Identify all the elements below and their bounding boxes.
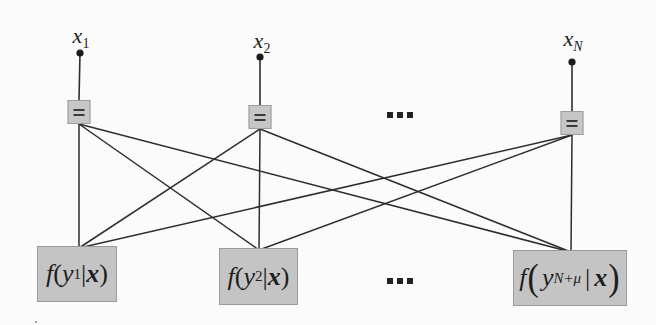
ellipsis-dot: [397, 278, 403, 284]
edge-xN-fN: [571, 135, 572, 252]
variable-subscript: 2: [263, 41, 270, 56]
ellipsis-dot: [387, 278, 393, 284]
bipartite-edges: [79, 124, 572, 252]
edge-x2-f2: [259, 129, 260, 250]
variable-label-x2: x2: [254, 30, 271, 60]
factor-variable: y: [62, 259, 74, 289]
equals-icon-bar: [74, 114, 85, 116]
variable-base: x: [254, 28, 264, 53]
equals-icon-bar: [74, 109, 85, 111]
variable-stems: [79, 53, 572, 111]
equals-icon-bar: [567, 120, 578, 122]
factor-node-f2: f(y2|x): [219, 248, 298, 305]
equality-node-x1: [68, 100, 91, 124]
variable-base: x: [73, 23, 83, 48]
conditioning-vector: x: [86, 259, 99, 289]
factor-subscript: 2: [255, 268, 263, 285]
variable-subscript: N: [573, 39, 582, 54]
equals-icon-bar: [255, 114, 266, 116]
equality-node-xN: [561, 111, 584, 135]
close-paren: ): [281, 262, 290, 292]
function-symbol: f: [46, 259, 53, 289]
ellipsis-dot: [407, 112, 413, 118]
equality-node-x2: [249, 105, 272, 129]
variable-dot-xN: [568, 58, 575, 65]
close-paren: ): [99, 259, 108, 289]
conditional-bar: |: [585, 263, 590, 293]
edge-x1-fN: [79, 124, 571, 252]
stem-x1: [79, 53, 80, 100]
scan-artifact-dot: [35, 321, 37, 323]
factor-node-fN: f(yN+μ|x): [513, 250, 627, 306]
equals-icon-bar: [255, 119, 266, 121]
edge-xN-f1: [79, 135, 572, 248]
factor-variable: y: [542, 263, 554, 293]
conditioning-vector: x: [594, 263, 607, 293]
variable-label-x1: x1: [73, 25, 90, 55]
edge-x2-fN: [260, 129, 571, 252]
open-paren: (: [528, 257, 539, 299]
factor-variable: y: [243, 262, 255, 292]
factor-subscript: 1: [74, 266, 82, 283]
ellipsis-dot: [387, 112, 393, 118]
factor-graph-diagram: x1 x2 xN f(y1|x) f(y2|x) f(yN+μ|x): [0, 0, 656, 325]
open-paren: (: [53, 259, 62, 289]
top-ellipsis: [387, 112, 413, 118]
variable-label-xN: xN: [563, 28, 582, 58]
close-paren: ): [608, 257, 619, 299]
variable-subscript: 1: [82, 36, 89, 51]
bottom-ellipsis: [387, 278, 413, 284]
factor-node-f1: f(y1|x): [37, 246, 117, 302]
ellipsis-dot: [407, 278, 413, 284]
edge-xN-f2: [259, 135, 572, 250]
function-symbol: f: [519, 263, 526, 293]
equals-icon-bar: [567, 125, 578, 127]
factor-subscript: N+μ: [553, 270, 581, 287]
conditioning-vector: x: [268, 262, 281, 292]
variable-base: x: [563, 26, 573, 51]
ellipsis-dot: [397, 112, 403, 118]
function-symbol: f: [228, 262, 235, 292]
variable-dots: [76, 49, 575, 65]
